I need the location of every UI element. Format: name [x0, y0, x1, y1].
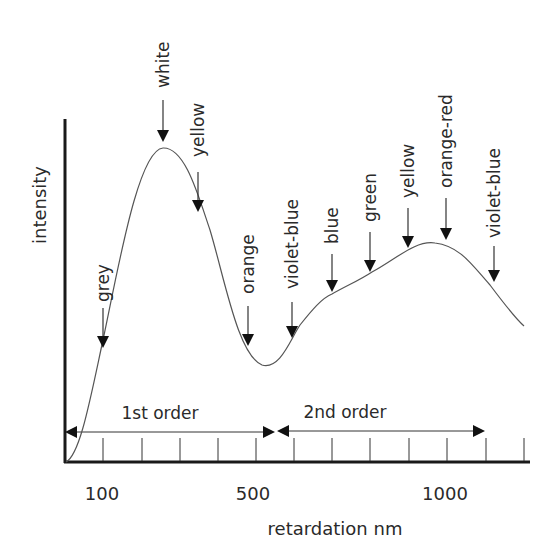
x-ticks [103, 438, 524, 461]
svg-text:blue: blue [322, 207, 342, 244]
annotation-violet-blue-2: violet-blue [484, 148, 504, 282]
x-axis-title: retardation nm [268, 518, 403, 539]
svg-text:violet-blue: violet-blue [282, 199, 302, 289]
order-1-range [65, 426, 275, 438]
x-tick-label-500: 500 [236, 483, 270, 504]
order-2-label: 2nd order [303, 402, 386, 422]
svg-text:grey: grey [93, 264, 113, 302]
annotation-blue: blue [322, 207, 342, 292]
svg-text:yellow: yellow [188, 103, 208, 157]
x-tick-label-1000: 1000 [422, 483, 468, 504]
order-2-range [277, 425, 485, 437]
x-tick-label-100: 100 [85, 483, 119, 504]
annotation-orange-red: orange-red [436, 94, 456, 240]
annotation-yellow-2: yellow [398, 144, 418, 248]
annotation-white: white [153, 41, 173, 142]
svg-text:white: white [153, 41, 173, 88]
svg-text:orange-red: orange-red [436, 94, 456, 188]
order-1-label: 1st order [121, 403, 198, 423]
svg-text:yellow: yellow [398, 144, 418, 198]
svg-text:orange: orange [238, 234, 258, 294]
y-axis-title: intensity [29, 166, 50, 244]
svg-text:violet-blue: violet-blue [484, 148, 504, 238]
interference-color-chart: intensity 100 500 1000 retardation nm 1s… [0, 0, 553, 560]
annotation-violet-blue-1: violet-blue [282, 199, 302, 338]
annotation-green: green [360, 173, 380, 272]
annotation-yellow-1: yellow [188, 103, 208, 212]
svg-text:green: green [360, 173, 380, 222]
annotation-orange: orange [238, 234, 258, 346]
